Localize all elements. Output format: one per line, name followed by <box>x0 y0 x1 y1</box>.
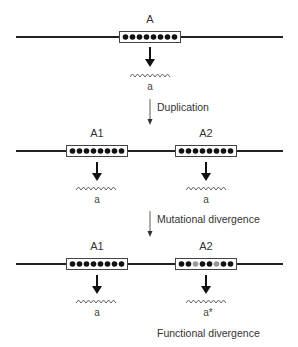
exon-dot <box>98 261 104 267</box>
exon-dot <box>214 261 220 267</box>
rna-wave-a <box>130 74 170 77</box>
exon-dot <box>221 261 227 267</box>
chromosome-stage-1 <box>16 32 283 78</box>
mutational-divergence-arrow <box>148 211 153 237</box>
exon-dot <box>84 148 90 154</box>
exon-dot <box>207 148 213 154</box>
step-label-duplication: Duplication <box>157 101 209 113</box>
exon-dot <box>228 261 234 267</box>
exon-dot <box>119 261 125 267</box>
gene-duplication-diagram <box>0 0 298 347</box>
exon-dot <box>186 261 192 267</box>
gene-box-A2-mutated <box>176 259 237 270</box>
exon-dot <box>228 148 234 154</box>
exon-dot <box>91 148 97 154</box>
gene-box-A1 <box>67 146 128 157</box>
gene-box-A2 <box>176 146 237 157</box>
exon-dot <box>130 34 136 40</box>
gene-label-A: A <box>146 13 153 25</box>
chromosome-stage-2 <box>16 146 283 191</box>
exon-dot <box>172 34 178 40</box>
gene-label-A2-final: A2 <box>199 240 212 252</box>
exon-dot <box>105 148 111 154</box>
chromosome-stage-3 <box>16 259 283 304</box>
product-label-a1-final: a <box>94 307 100 318</box>
rna-wave-a2 <box>186 187 226 190</box>
exon-dot <box>70 261 76 267</box>
exon-dot <box>105 261 111 267</box>
exon-dot <box>119 148 125 154</box>
product-label-a1: a <box>94 194 100 205</box>
exon-dot <box>200 148 206 154</box>
transcription-arrow-A1-final <box>92 275 102 294</box>
exon-dot <box>158 34 164 40</box>
exon-dot <box>186 148 192 154</box>
exon-dot <box>165 34 171 40</box>
exon-dot <box>137 34 143 40</box>
transcription-arrow-A1 <box>92 162 102 181</box>
transcription-arrow <box>145 47 155 67</box>
rna-wave-a1 <box>76 187 116 190</box>
exon-dot <box>77 148 83 154</box>
gene-label-A2: A2 <box>199 127 212 139</box>
exon-dot <box>179 148 185 154</box>
product-label-a-star: a* <box>203 307 212 318</box>
exon-dot <box>207 261 213 267</box>
transcription-arrow-A2 <box>201 162 211 181</box>
exon-dot <box>193 261 199 267</box>
gene-label-A1: A1 <box>90 127 103 139</box>
exon-dot <box>179 261 185 267</box>
exon-dot <box>112 261 118 267</box>
exon-dot <box>98 148 104 154</box>
exon-dot <box>221 148 227 154</box>
gene-box-A <box>120 32 181 43</box>
product-label-a2: a <box>203 194 209 205</box>
rna-wave-a1-final <box>76 300 116 303</box>
step-label-mutational-divergence: Mutational divergence <box>157 213 260 225</box>
footer-label-functional-divergence: Functional divergence <box>157 327 260 339</box>
gene-box-A1-final <box>67 259 128 270</box>
gene-label-A1-final: A1 <box>90 240 103 252</box>
exon-dot <box>200 261 206 267</box>
product-label-a: a <box>147 81 153 92</box>
duplication-arrow <box>148 99 153 125</box>
exon-dot <box>84 261 90 267</box>
exon-dot <box>214 148 220 154</box>
exon-dot <box>77 261 83 267</box>
exon-dot <box>70 148 76 154</box>
exon-dot <box>144 34 150 40</box>
exon-dot <box>91 261 97 267</box>
exon-dot <box>112 148 118 154</box>
exon-dot <box>123 34 129 40</box>
exon-dot <box>193 148 199 154</box>
rna-wave-a-star <box>186 300 226 303</box>
transcription-arrow-A2-final <box>201 275 211 294</box>
exon-dot <box>151 34 157 40</box>
